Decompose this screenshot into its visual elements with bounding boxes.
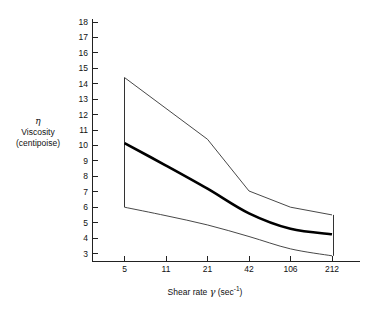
x-tick-label-5: 5	[122, 264, 127, 274]
x-axis-tick-labels: 5112142106212	[122, 264, 339, 274]
y-tick-label-6: 6	[83, 202, 88, 212]
data-curves	[125, 78, 334, 256]
x-axis-label: Shear rate γ (sec-1)	[120, 285, 290, 297]
y-tick-label-7: 7	[83, 187, 88, 197]
y-tick-label-11: 11	[79, 125, 88, 135]
y-tick-label-14: 14	[79, 79, 89, 89]
x-axis-ticks	[125, 256, 333, 262]
y-tick-label-17: 17	[79, 32, 89, 42]
chart-canvas: 1817161514131211109876543 5112142106212	[0, 0, 368, 310]
y-tick-label-15: 15	[79, 63, 89, 73]
y-tick-label-16: 16	[79, 48, 89, 58]
upper-bound-curve	[125, 78, 333, 215]
y-tick-label-3: 3	[83, 249, 88, 259]
y-tick-label-12: 12	[79, 110, 89, 120]
y-tick-label-8: 8	[83, 171, 88, 181]
x-tick-label-212: 212	[325, 264, 339, 274]
y-tick-label-10: 10	[79, 140, 89, 150]
y-axis-tick-labels: 1817161514131211109876543	[79, 17, 89, 259]
y-axis-label-line-0: η	[2, 116, 74, 127]
viscosity-shear-rate-chart: 1817161514131211109876543 5112142106212 …	[0, 0, 368, 310]
y-axis-ticks	[93, 22, 98, 254]
x-tick-label-106: 106	[283, 264, 297, 274]
y-tick-label-5: 5	[83, 218, 88, 228]
x-tick-label-11: 11	[162, 264, 171, 274]
y-tick-label-4: 4	[83, 233, 88, 243]
y-axis-label-line-1: Viscosity	[2, 127, 74, 138]
x-axis-label-units: (sec-1)	[215, 287, 242, 297]
x-tick-label-42: 42	[244, 264, 254, 274]
y-tick-label-13: 13	[79, 94, 89, 104]
axes	[93, 19, 361, 262]
mean-viscosity-curve	[125, 143, 333, 234]
y-axis-label-line-2: (centipoise)	[2, 138, 74, 149]
y-axis-label: η Viscosity (centipoise)	[2, 116, 74, 149]
y-tick-label-18: 18	[79, 17, 89, 27]
x-tick-label-21: 21	[203, 264, 213, 274]
y-tick-label-9: 9	[83, 156, 88, 166]
x-axis-label-prefix: Shear rate	[168, 287, 210, 297]
